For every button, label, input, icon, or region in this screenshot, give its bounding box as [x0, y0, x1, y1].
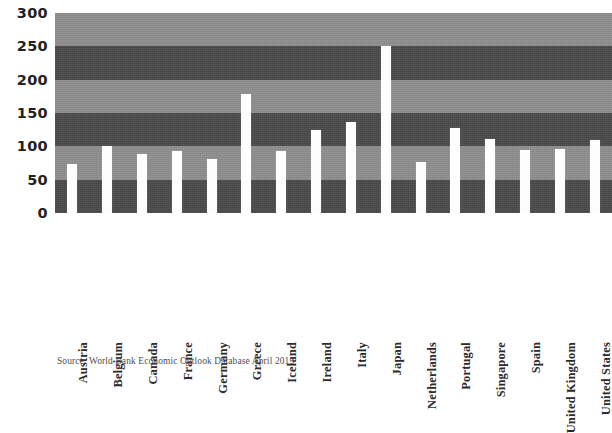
- bar: [67, 164, 77, 213]
- bar: [207, 159, 217, 213]
- x-tick-label: Netherlands: [426, 342, 438, 409]
- bar: [590, 140, 600, 213]
- y-tick-label: 100: [17, 139, 48, 154]
- bar: [416, 162, 426, 213]
- plot-area: [55, 13, 612, 213]
- bar: [555, 149, 565, 213]
- y-axis: 300250200150100500: [0, 0, 52, 220]
- bar: [102, 146, 112, 213]
- x-axis: AustriaBelgiumCanadaFranceGermanyGreeceI…: [55, 216, 612, 346]
- x-tick-label: United Kingdom: [565, 342, 577, 433]
- bar: [137, 154, 147, 213]
- x-tick-label: Spain: [530, 342, 542, 373]
- y-tick-label: 150: [17, 106, 48, 121]
- y-tick-label: 0: [38, 206, 48, 221]
- y-tick-label: 250: [17, 39, 48, 54]
- bars-layer: [55, 13, 612, 213]
- bar: [276, 151, 286, 213]
- bar: [172, 151, 182, 213]
- bar: [520, 150, 530, 213]
- x-tick-label: Germany: [217, 342, 229, 394]
- x-tick-label: Japan: [391, 342, 403, 375]
- x-tick-label: Italy: [356, 342, 368, 368]
- bar: [381, 46, 391, 213]
- x-tick-label: United States: [600, 342, 612, 415]
- source-note: Source: World Bank Economic Outlook Data…: [57, 356, 294, 366]
- y-tick-label: 200: [17, 72, 48, 87]
- x-tick-label: Portugal: [460, 342, 472, 390]
- bar: [485, 139, 495, 213]
- bar: [241, 94, 251, 213]
- bar: [311, 130, 321, 213]
- bar: [450, 128, 460, 213]
- y-tick-label: 300: [17, 6, 48, 21]
- bar: [346, 122, 356, 213]
- x-tick-label: Ireland: [321, 342, 333, 382]
- y-tick-label: 50: [27, 172, 48, 187]
- x-tick-label: Singapore: [495, 342, 507, 397]
